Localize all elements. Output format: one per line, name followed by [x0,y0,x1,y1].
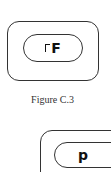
figure-1-glyph: F [51,41,61,55]
figure-caption: Figure C.3 [0,94,105,105]
figure-2-pill: p [54,142,111,168]
figure-2-glyph: p [78,148,88,162]
figure-1-pill: F [23,34,83,62]
corner-bracket-icon [45,44,50,52]
